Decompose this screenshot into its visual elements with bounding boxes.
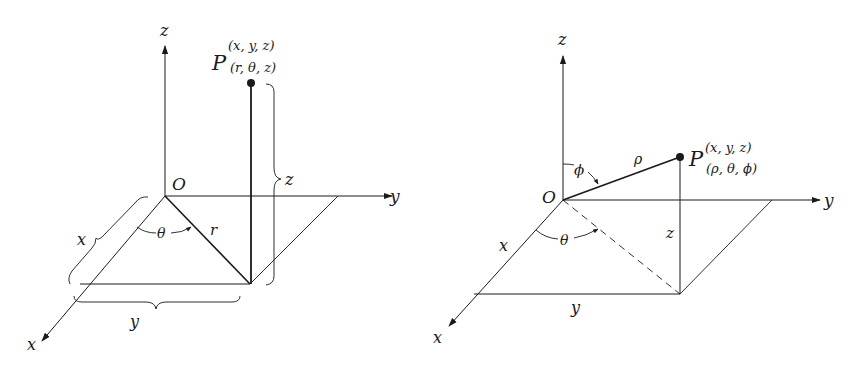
y-axis-label: y	[389, 186, 400, 206]
theta-label: θ	[560, 232, 569, 248]
point-p-label: P	[211, 51, 227, 75]
x-segment-label: x	[499, 236, 508, 255]
point-p-label: P	[688, 147, 704, 171]
point-p-cartesian: (x, y, z)	[705, 140, 751, 155]
x-axis-label: x	[27, 335, 36, 354]
spherical-figure: z y x O z ρ ϕ θ x y P (x, y, z)	[433, 30, 834, 347]
cylindrical-figure: z y x O r θ P (x, y, z) (r, θ, z) z y	[27, 21, 400, 354]
origin-label: O	[172, 174, 186, 194]
phi-arc-bottom	[588, 172, 598, 184]
y-axis-label: y	[823, 190, 834, 210]
y-brace-label: y	[129, 312, 140, 331]
point-p-cylindrical: (r, θ, z)	[230, 60, 276, 75]
x-axis-label: x	[433, 328, 442, 347]
projection-dashed	[563, 200, 680, 294]
point-p	[676, 153, 684, 161]
base-line-x	[250, 196, 338, 284]
theta-arc-left	[137, 227, 156, 233]
theta-arc-right	[171, 227, 191, 233]
z-axis-label: z	[159, 21, 169, 40]
y-brace	[74, 296, 240, 309]
z-brace-label: z	[284, 170, 294, 189]
r-label: r	[210, 221, 218, 239]
x-axis	[42, 196, 165, 341]
origin-label: O	[542, 187, 556, 207]
rho-label: ρ	[633, 151, 643, 167]
base-line-x	[680, 200, 772, 294]
z-segment-label: z	[665, 224, 674, 242]
theta-arc-left	[536, 230, 558, 239]
phi-label: ϕ	[574, 161, 584, 179]
point-p-spherical: (ρ, θ, ϕ)	[706, 161, 757, 176]
theta-label: θ	[157, 225, 166, 241]
coordinate-diagrams: z y x O r θ P (x, y, z) (r, θ, z) z y	[0, 0, 866, 367]
phi-arc-top	[563, 164, 574, 165]
point-p-cartesian: (x, y, z)	[228, 38, 274, 53]
point-p	[247, 79, 255, 87]
y-segment-label: y	[570, 298, 581, 317]
x-axis	[449, 200, 563, 326]
x-brace-label: x	[77, 230, 86, 249]
r-segment	[165, 196, 250, 284]
theta-arc-right	[574, 229, 598, 238]
z-axis-label: z	[557, 30, 567, 49]
